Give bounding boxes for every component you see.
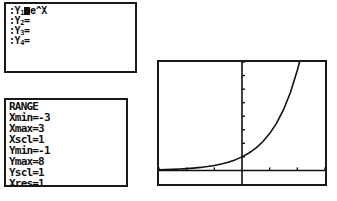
y-equals-editor-screen[interactable]: :Y1e^X :Y2= :Y3= :Y4= bbox=[4, 2, 137, 73]
graph-screen[interactable] bbox=[157, 60, 327, 186]
y3-subscript: 3 bbox=[20, 29, 24, 37]
y1-subscript: 1 bbox=[20, 9, 24, 17]
y2-subscript: 2 bbox=[20, 19, 24, 27]
range-line-list: RANGE Xmin=-3 Xmax=3 Xscl=1 Ymin=-1 Ymax… bbox=[9, 101, 124, 189]
curve-y1-exponential bbox=[159, 62, 300, 170]
y-equals-line-y4[interactable]: :Y4= bbox=[9, 36, 133, 46]
y4-subscript: 4 bbox=[20, 39, 24, 47]
exponential-graph-plot bbox=[159, 62, 325, 184]
axes-layer bbox=[159, 62, 325, 184]
y1-expression: e^X bbox=[30, 5, 47, 16]
range-row-xres[interactable]: Xres=1 bbox=[9, 178, 124, 189]
y-equals-line-list: :Y1e^X :Y2= :Y3= :Y4= bbox=[9, 6, 133, 46]
range-editor-screen[interactable]: RANGE Xmin=-3 Xmax=3 Xscl=1 Ymin=-1 Ymax… bbox=[4, 98, 128, 187]
y4-equals: = bbox=[24, 35, 30, 46]
